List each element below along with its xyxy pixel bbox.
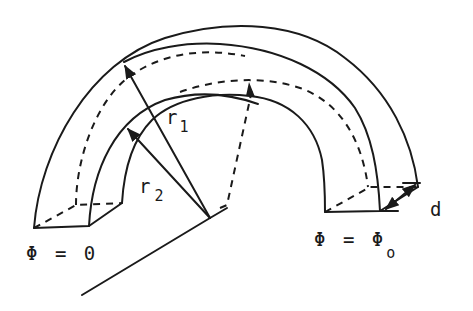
label-r2-sub: 2 xyxy=(154,187,163,205)
label-phi-end: Φ = Φo xyxy=(314,230,395,249)
right-end-face xyxy=(325,187,418,212)
label-phi-end-base: Φ = Φ xyxy=(314,228,386,250)
label-r2: r2 xyxy=(139,177,163,196)
depth-arrow xyxy=(386,185,415,209)
waveguide-bend-diagram xyxy=(0,0,473,311)
label-phi-end-sub: o xyxy=(386,244,395,262)
left-end-back-edges xyxy=(34,203,122,228)
label-depth: d xyxy=(430,200,441,219)
right-end-back-edges xyxy=(325,187,418,212)
baseline-axis xyxy=(82,208,227,295)
r1-arrow xyxy=(125,66,210,218)
label-r1: r1 xyxy=(166,108,188,127)
back-radius-arrowhead xyxy=(246,82,255,97)
label-r1-sub: 1 xyxy=(179,118,188,136)
left-end-face xyxy=(34,203,122,228)
label-r1-base: r xyxy=(166,106,177,128)
r2-arrow xyxy=(128,129,210,218)
label-r2-base: r xyxy=(139,175,150,197)
back-radius-dashed xyxy=(220,90,252,208)
label-phi-start: Φ = 0 xyxy=(26,244,98,263)
